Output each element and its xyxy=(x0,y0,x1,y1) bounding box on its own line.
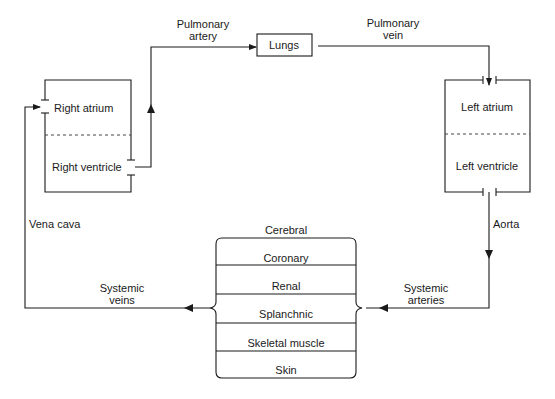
svg-text:vein: vein xyxy=(383,29,403,41)
pulmonary-artery: Pulmonary artery xyxy=(135,18,256,167)
right-atrium-label: Right atrium xyxy=(54,102,113,114)
left-atrium-label: Left atrium xyxy=(461,101,513,113)
left-arrow-icon xyxy=(184,304,193,312)
organ-beds: Cerebral Coronary Renal Splanchnic Skele… xyxy=(210,224,362,378)
pulmonary-vein: Pulmonary vein xyxy=(318,17,489,85)
svg-text:veins: veins xyxy=(109,294,135,306)
left-heart: Left atrium Left ventricle xyxy=(445,76,530,196)
svg-text:Aorta: Aorta xyxy=(493,218,520,230)
up-arrow-icon xyxy=(147,104,155,113)
right-ventricle-label: Right ventricle xyxy=(52,161,122,173)
svg-text:artery: artery xyxy=(189,30,218,42)
organ-skin: Skin xyxy=(275,364,296,376)
organ-renal: Renal xyxy=(272,280,301,292)
aorta: Aorta Systemic arteries xyxy=(366,192,520,312)
svg-text:Lungs: Lungs xyxy=(269,39,299,51)
lungs-box: Lungs xyxy=(257,34,312,56)
left-arrow-icon xyxy=(379,304,388,312)
svg-text:Systemic: Systemic xyxy=(404,282,449,294)
svg-text:Pulmonary: Pulmonary xyxy=(177,18,230,30)
vena-cava: Vena cava Systemic veins xyxy=(25,107,210,312)
organ-splanchnic: Splanchnic xyxy=(259,308,313,320)
organ-coronary: Coronary xyxy=(263,252,309,264)
right-heart: Right atrium Right ventricle xyxy=(41,80,135,192)
svg-text:Vena cava: Vena cava xyxy=(29,218,81,230)
svg-text:arteries: arteries xyxy=(408,294,445,306)
circulation-diagram: Right atrium Right ventricle Pulmonary a… xyxy=(0,0,555,399)
left-ventricle-label: Left ventricle xyxy=(456,160,518,172)
down-arrow-icon xyxy=(485,250,493,259)
organ-skeletal-muscle: Skeletal muscle xyxy=(247,337,324,349)
svg-text:Systemic: Systemic xyxy=(100,282,145,294)
organ-cerebral: Cerebral xyxy=(265,224,307,236)
svg-text:Pulmonary: Pulmonary xyxy=(367,17,420,29)
